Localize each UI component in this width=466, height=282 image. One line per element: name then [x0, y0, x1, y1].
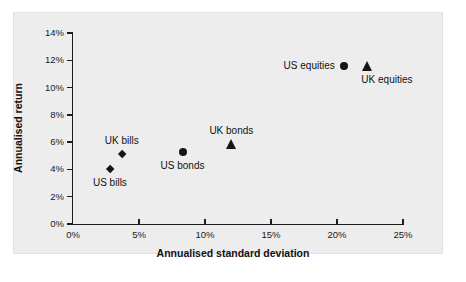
y-axis-tick — [67, 169, 72, 170]
data-point-marker — [362, 61, 372, 71]
y-axis-title: Annualised return — [12, 63, 24, 193]
data-point-label: US bonds — [161, 160, 205, 171]
data-point-label: US equities — [284, 60, 335, 71]
y-axis-tick — [67, 223, 72, 224]
y-axis-tick-label: 6% — [38, 136, 64, 147]
x-axis-tick-label: 15% — [251, 229, 291, 240]
x-axis-tick — [402, 219, 403, 224]
y-axis-tick-label: 8% — [38, 109, 64, 120]
x-axis-tick — [336, 219, 337, 224]
y-axis-tick — [67, 141, 72, 142]
data-point-marker — [226, 139, 236, 149]
data-point-label: UK equities — [361, 74, 412, 85]
y-axis-tick-label: 2% — [38, 191, 64, 202]
y-axis-tick-label: 0% — [38, 218, 64, 229]
x-axis-tick — [204, 219, 205, 224]
chart-figure: 0%2%4%6%8%10%12%14%0%5%10%15%20%25%US bi… — [0, 0, 466, 282]
data-point-label: US bills — [93, 177, 127, 188]
data-point-label: UK bills — [105, 135, 139, 146]
y-axis-tick-label: 10% — [38, 82, 64, 93]
y-axis-tick-label: 14% — [38, 27, 64, 38]
y-axis-line — [72, 32, 73, 225]
y-axis-tick — [67, 87, 72, 88]
data-point-label: UK bonds — [209, 125, 253, 136]
x-axis-tick-label: 5% — [119, 229, 159, 240]
y-axis-tick-label: 4% — [38, 163, 64, 174]
data-point-marker — [179, 148, 187, 156]
y-axis-tick — [67, 32, 72, 33]
x-axis-tick-label: 25% — [383, 229, 423, 240]
y-axis-tick — [67, 60, 72, 61]
y-axis-tick-label: 12% — [38, 54, 64, 65]
y-axis-tick — [67, 196, 72, 197]
x-axis-line — [72, 224, 404, 225]
x-axis-title: Annualised standard deviation — [0, 247, 466, 259]
data-point-marker — [340, 62, 348, 70]
x-axis-tick-label: 10% — [185, 229, 225, 240]
x-axis-tick-label: 0% — [53, 229, 93, 240]
x-axis-tick — [270, 219, 271, 224]
x-axis-tick — [138, 219, 139, 224]
x-axis-tick-label: 20% — [317, 229, 357, 240]
y-axis-tick — [67, 114, 72, 115]
